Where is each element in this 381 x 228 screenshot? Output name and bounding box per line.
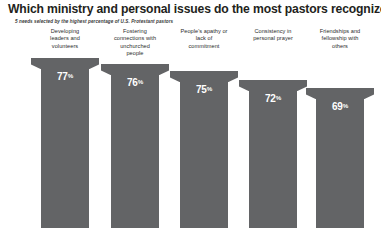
column-value-1-number: 77 (57, 71, 68, 82)
column-label-5-line1: Friendships and (306, 28, 374, 35)
column-label-3-line2: lack of (170, 35, 238, 42)
column-shaft-5 (316, 97, 364, 228)
column-group-2: Fostering connections with unchurched pe… (101, 28, 169, 228)
column-bar-2: 76% (101, 64, 169, 228)
column-value-2: 76% (101, 77, 169, 88)
column-capital-3 (170, 71, 238, 82)
column-value-3-number: 75 (196, 84, 207, 95)
column-label-2: Fostering connections with unchurched pe… (101, 28, 169, 58)
column-label-5-line3: others (306, 43, 374, 50)
column-label-3-line1: People's apathy or (170, 28, 238, 35)
chart-title: Which ministry and personal issues do th… (8, 3, 376, 16)
column-label-5-line2: fellowship with (306, 35, 374, 42)
column-capital-5 (306, 88, 374, 99)
column-label-4: Consistency in personal prayer (239, 28, 307, 43)
column-label-2-line2: connections with (101, 35, 169, 42)
column-shaft-1 (41, 67, 89, 228)
column-group-4: Consistency in personal prayer 72% (239, 28, 307, 228)
column-value-5: 69% (306, 101, 374, 112)
column-value-5-number: 69 (332, 101, 343, 112)
column-label-3-line3: commitment (170, 43, 238, 50)
chart-container: Which ministry and personal issues do th… (0, 0, 381, 228)
column-label-1-line3: volunteers (31, 43, 99, 50)
column-label-2-line3: unchurched (101, 43, 169, 50)
column-label-3: People's apathy or lack of commitment (170, 28, 238, 50)
plot-area: Developing leaders and volunteers 77% Fo… (0, 28, 381, 228)
column-value-2-suffix: % (138, 78, 143, 85)
column-bar-5: 69% (306, 88, 374, 228)
column-label-1: Developing leaders and volunteers (31, 28, 99, 50)
column-value-4-suffix: % (276, 94, 281, 101)
column-bar-4: 72% (239, 80, 307, 228)
column-value-4: 72% (239, 93, 307, 104)
column-capital-4 (239, 80, 307, 91)
column-label-4-line1: Consistency in (239, 28, 307, 35)
column-value-3-suffix: % (207, 85, 212, 92)
column-label-4-line2: personal prayer (239, 35, 307, 42)
column-label-1-line2: leaders and (31, 35, 99, 42)
column-value-1: 77% (31, 71, 99, 82)
column-value-4-number: 72 (265, 93, 276, 104)
column-group-3: People's apathy or lack of commitment 75… (170, 28, 238, 228)
column-shaft-3 (180, 80, 228, 228)
column-label-2-line4: people (101, 50, 169, 57)
column-value-3: 75% (170, 84, 238, 95)
column-group-5: Friendships and fellowship with others 6… (306, 28, 374, 228)
column-shaft-2 (111, 73, 159, 228)
column-capital-1 (31, 58, 99, 69)
column-bar-1: 77% (31, 58, 99, 228)
column-capital-2 (101, 64, 169, 75)
column-value-1-suffix: % (68, 72, 73, 79)
chart-subtitle: 5 needs selected by the highest percenta… (15, 19, 173, 24)
column-label-5: Friendships and fellowship with others (306, 28, 374, 50)
column-shaft-4 (249, 89, 297, 228)
column-label-2-line1: Fostering (101, 28, 169, 35)
column-label-1-line1: Developing (31, 28, 99, 35)
column-bar-3: 75% (170, 71, 238, 228)
column-value-5-suffix: % (343, 102, 348, 109)
column-group-1: Developing leaders and volunteers 77% (31, 28, 99, 228)
column-value-2-number: 76 (127, 77, 138, 88)
